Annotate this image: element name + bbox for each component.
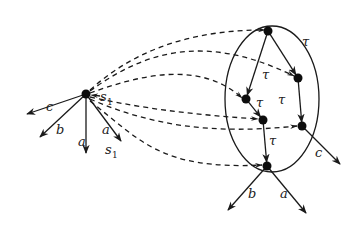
- edge-label-a: a: [102, 122, 110, 137]
- tau-label: τ: [269, 133, 277, 148]
- s1-lower-label: s: [105, 142, 112, 157]
- dashed-arrow-to-left_mid: [90, 74, 242, 98]
- dashed-correspondence-arrows: [90, 30, 297, 166]
- dashed-arrow-to-center: [90, 97, 258, 119]
- tau-edge-right_upper-right_lower: [298, 82, 301, 122]
- tau-label: τ: [278, 92, 286, 107]
- tau-edge-center-bottom: [263, 124, 266, 162]
- edge-label-c: c: [46, 99, 54, 114]
- tau-label: τ: [256, 95, 264, 110]
- state-node-top: [264, 27, 273, 36]
- state-nodes: [82, 27, 307, 171]
- tau-edge-top-right_upper: [270, 34, 296, 74]
- tau-label: τ: [262, 67, 270, 82]
- state-node-center: [259, 116, 268, 125]
- s1-self-label: s: [100, 89, 107, 104]
- state-node-bottom: [263, 162, 272, 171]
- s1-subscript: 1: [107, 97, 113, 107]
- transition-diagram: cbaaτττττcbas1s1: [0, 0, 349, 227]
- tau-edge-top-left_mid: [247, 35, 267, 95]
- edge-label-a: a: [78, 134, 86, 149]
- edge-label-c: c: [315, 145, 323, 160]
- state-node-right_upper: [294, 74, 303, 83]
- tau-label: τ: [302, 34, 310, 49]
- dashed-arrow-to-top: [90, 30, 265, 90]
- state-node-left_mid: [242, 95, 251, 104]
- state-node-right_lower: [298, 122, 307, 131]
- s1-subscript: 1: [112, 150, 118, 160]
- edge-labels: cbaaτττττcbas1s1: [46, 34, 323, 201]
- edge-label-b: b: [56, 122, 64, 137]
- transition-edges: [27, 34, 340, 213]
- state-node-left: [82, 90, 91, 99]
- left-edge-c: [27, 94, 86, 114]
- edge-label-a: a: [280, 186, 288, 201]
- edge-label-b: b: [248, 186, 256, 201]
- s1-self-arrow: [91, 95, 100, 96]
